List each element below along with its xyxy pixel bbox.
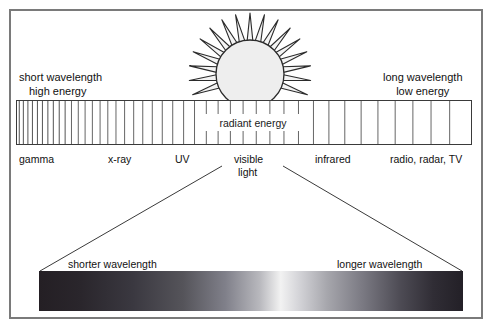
sun-illustration — [182, 6, 318, 106]
electromagnetic-spectrum-figure: short wavelength high energy long wavele… — [0, 0, 495, 330]
long-wavelength-line2: low energy — [383, 85, 463, 99]
sun-ray — [283, 75, 311, 81]
sun-ray — [247, 13, 253, 41]
shorter-wavelength-label: shorter wavelength — [68, 258, 157, 270]
sun-ray — [236, 15, 245, 43]
short-wavelength-line2: high energy — [19, 85, 102, 99]
band-label-uv: UV — [175, 153, 190, 166]
band-label-visible: visible — [234, 153, 263, 166]
short-wavelength-line1: short wavelength — [19, 71, 102, 85]
visible-light-spectrum-bar — [39, 271, 463, 311]
sun-ray — [190, 66, 218, 72]
sun-ray — [255, 15, 264, 43]
radiant-energy-label: radiant energy — [201, 114, 305, 131]
sun-ray — [280, 52, 307, 65]
band-label-gamma: gamma — [19, 153, 54, 166]
long-wavelength-note: long wavelength low energy — [383, 71, 463, 98]
sun-ray — [193, 83, 220, 95]
band-label-infrared: infrared — [315, 153, 351, 166]
sun-ray — [193, 52, 220, 65]
longer-wavelength-label: longer wavelength — [337, 258, 422, 270]
band-label-light: light — [238, 166, 257, 179]
sun-disc — [216, 40, 284, 106]
short-wavelength-note: short wavelength high energy — [19, 71, 102, 98]
sun-ray — [280, 83, 307, 95]
band-label-x-ray: x-ray — [108, 153, 131, 166]
long-wavelength-line1: long wavelength — [383, 71, 463, 85]
band-label-radio-radar-tv: radio, radar, TV — [390, 153, 462, 166]
visible-light-gradient — [39, 271, 463, 311]
sun-ray — [283, 66, 311, 72]
sun-ray — [189, 75, 217, 81]
